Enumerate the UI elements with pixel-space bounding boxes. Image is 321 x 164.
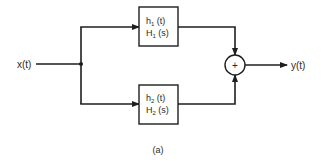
svg-text:h1 (t): h1 (t) (146, 16, 165, 27)
svg-text:H1 (s): H1 (s) (146, 28, 169, 39)
block1-impulse-response-tail: (t) (154, 16, 165, 26)
svg-text:H2 (s): H2 (s) (146, 105, 169, 116)
block1-output-line (178, 27, 235, 55)
block2-output-line (178, 75, 235, 104)
figure-caption: (a) (153, 145, 164, 155)
input-label: x(t) (17, 59, 31, 70)
plus-icon: + (232, 60, 238, 71)
block2-transfer-function-tail: (s) (156, 105, 169, 115)
block1-transfer-function-tail: (s) (156, 28, 169, 38)
block2-impulse-response-tail: (t) (154, 93, 165, 103)
block-h1: h1 (t) H1 (s) (139, 7, 178, 46)
summing-junction: + (225, 55, 245, 75)
svg-text:h2 (t): h2 (t) (146, 93, 165, 104)
output-label: y(t) (291, 60, 305, 71)
parallel-system-diagram: x(t) h1 (t) H1 (s) h2 (t) H2 (s) + (0, 0, 321, 164)
block-h2: h2 (t) H2 (s) (139, 85, 178, 124)
